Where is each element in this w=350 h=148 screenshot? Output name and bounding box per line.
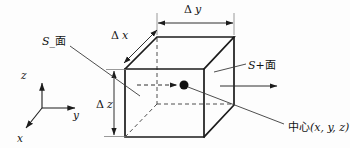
s-minus-leader-line bbox=[70, 46, 140, 96]
diagram-canvas: Δy Δx Δz S_面 S+面 中心(x, y, z) z y x bbox=[0, 0, 350, 148]
cube-top-face bbox=[125, 37, 234, 69]
labels: Δy Δx Δz S_面 S+面 中心(x, y, z) z y x bbox=[17, 3, 349, 144]
axis-y-label: y bbox=[72, 109, 80, 121]
center-point-label: 中心(x, y, z) bbox=[288, 121, 349, 134]
cube-front-face bbox=[125, 69, 204, 137]
center-leader-line bbox=[188, 87, 284, 124]
control-volume-diagram: Δy Δx Δz S_面 S+面 中心(x, y, z) z y x bbox=[0, 0, 350, 148]
leader-lines bbox=[70, 46, 284, 124]
delta-x-label: Δx bbox=[111, 29, 129, 42]
axis-z-label: z bbox=[20, 69, 27, 81]
axis-x-label: x bbox=[17, 132, 23, 144]
hidden-edge-bottom-left-depth bbox=[126, 104, 157, 136]
s-plus-face-label: S+面 bbox=[248, 59, 276, 72]
s-plus-leader-line bbox=[214, 64, 246, 72]
cube-solid-edges bbox=[125, 37, 234, 137]
axis-x-arrow bbox=[26, 108, 42, 128]
center-point-dot bbox=[180, 81, 189, 90]
delta-x-dimension-arrow bbox=[124, 30, 157, 63]
delta-z-label: Δz bbox=[96, 98, 113, 111]
flux-annotations bbox=[137, 81, 277, 90]
coordinate-axes bbox=[26, 83, 75, 128]
s-minus-face-label: S_面 bbox=[42, 35, 66, 48]
delta-y-label: Δy bbox=[184, 3, 202, 16]
